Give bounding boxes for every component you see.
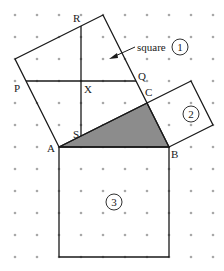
grid-dot xyxy=(36,212,39,215)
grid-dot xyxy=(14,146,17,149)
grid-dot xyxy=(102,168,105,171)
grid-dot xyxy=(212,234,215,237)
point-label-x: X xyxy=(84,83,92,95)
grid-dot xyxy=(80,212,83,215)
grid-dot xyxy=(190,58,193,61)
square-2-number: 2 xyxy=(188,108,194,120)
grid-dot xyxy=(212,256,215,259)
grid-dot xyxy=(168,36,171,39)
grid-dot xyxy=(36,58,39,61)
grid-dot xyxy=(212,168,215,171)
grid-dot xyxy=(168,102,171,105)
grid-dot xyxy=(146,36,149,39)
grid-dot xyxy=(190,168,193,171)
grid-dot xyxy=(190,102,193,105)
grid-dot xyxy=(212,14,215,17)
shaded-triangle-layer xyxy=(59,103,169,147)
grid-dot xyxy=(14,190,17,193)
grid-dot xyxy=(102,212,105,215)
grid-dot xyxy=(36,190,39,193)
pythagoras-dot-grid-diagram: 23 RPXQCSAB square 1 xyxy=(0,0,224,271)
grid-dot xyxy=(36,256,39,259)
grid-dot xyxy=(124,234,127,237)
grid-dot xyxy=(124,102,127,105)
grid-dot xyxy=(102,36,105,39)
grid-dot xyxy=(14,234,17,237)
grid-dot xyxy=(146,80,149,83)
point-label-r: R xyxy=(73,12,81,24)
grid-dot xyxy=(124,190,127,193)
callout-text: square xyxy=(137,41,166,53)
grid-dot xyxy=(14,124,17,127)
grid-dot xyxy=(212,102,215,105)
grid-dot xyxy=(14,14,17,17)
grid-dot xyxy=(36,124,39,127)
grid-dot xyxy=(146,58,149,61)
grid-dot xyxy=(190,124,193,127)
grid-dot xyxy=(168,124,171,127)
grid-dot xyxy=(14,36,17,39)
grid-dot xyxy=(58,124,61,127)
grid-dot xyxy=(36,14,39,17)
grid-dot xyxy=(212,58,215,61)
grid-dot xyxy=(80,190,83,193)
grid-dot xyxy=(146,212,149,215)
point-label-s: S xyxy=(73,128,79,140)
grid-dot xyxy=(190,146,193,149)
grid-dot xyxy=(14,102,17,105)
grid-dot xyxy=(36,36,39,39)
grid-dot xyxy=(102,234,105,237)
grid-dot xyxy=(190,256,193,259)
point-label-q: Q xyxy=(138,70,146,82)
grid-dot xyxy=(146,168,149,171)
grid-dot xyxy=(168,58,171,61)
grid-dot xyxy=(14,212,17,215)
point-label-p: P xyxy=(14,82,20,94)
grid-dot xyxy=(80,168,83,171)
callout-number: 1 xyxy=(177,41,183,53)
callout-arrow-head-icon xyxy=(109,53,118,59)
grid-dot xyxy=(212,190,215,193)
grid-dot xyxy=(124,168,127,171)
grid-dot xyxy=(58,14,61,17)
grid-dot xyxy=(190,36,193,39)
point-label-c: C xyxy=(145,86,152,98)
grid-dot xyxy=(124,212,127,215)
grid-dot xyxy=(146,14,149,17)
grid-dot xyxy=(36,146,39,149)
grid-dot xyxy=(124,14,127,17)
grid-dot xyxy=(212,146,215,149)
grid-dot xyxy=(58,102,61,105)
grid-dot xyxy=(190,212,193,215)
square-3-number: 3 xyxy=(111,196,117,208)
grid-dot xyxy=(190,190,193,193)
grid-dot xyxy=(80,234,83,237)
shaded-triangle-abc xyxy=(59,103,169,147)
grid-dot xyxy=(102,190,105,193)
grid-dot xyxy=(58,58,61,61)
grid-dot xyxy=(36,234,39,237)
grid-dot xyxy=(212,80,215,83)
grid-dot xyxy=(146,190,149,193)
grid-dot xyxy=(190,14,193,17)
grid-dot xyxy=(102,58,105,61)
grid-dot xyxy=(190,234,193,237)
grid-dot xyxy=(14,168,17,171)
grid-dot xyxy=(168,80,171,83)
grid-dot xyxy=(124,36,127,39)
point-label-a: A xyxy=(47,142,55,154)
grid-dot xyxy=(146,234,149,237)
square-1-callout: square 1 xyxy=(109,39,188,59)
grid-dot xyxy=(212,212,215,215)
grid-dot xyxy=(102,102,105,105)
grid-dot xyxy=(36,168,39,171)
grid-dot xyxy=(168,14,171,17)
grid-dot xyxy=(212,36,215,39)
grid-dot xyxy=(14,256,17,259)
point-label-b: B xyxy=(171,148,178,160)
